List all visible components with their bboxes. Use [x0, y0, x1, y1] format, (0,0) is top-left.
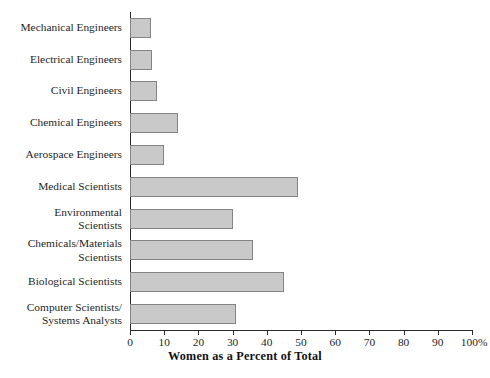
x-tick-label: 80 [398, 336, 409, 348]
bar-track [130, 76, 472, 108]
x-tick-mark [472, 330, 473, 335]
x-tick-label: 0 [127, 336, 133, 348]
bar-category-label: Electrical Engineers [0, 53, 122, 66]
bar-row: Computer Scientists/ Systems Analysts [0, 298, 490, 330]
bar-row: Mechanical Engineers [0, 12, 490, 44]
bar-row: Chemicals/Materials Scientists [0, 235, 490, 267]
bar-category-label: Civil Engineers [0, 85, 122, 98]
x-tick-label: 100% [461, 336, 488, 348]
bar-track [130, 171, 472, 203]
bar [130, 240, 253, 260]
bar-track [130, 203, 472, 235]
bar-track [130, 139, 472, 171]
x-tick-label: 90 [432, 336, 443, 348]
bar-category-label: Biological Scientists [0, 276, 122, 289]
x-tick-label: 20 [193, 336, 204, 348]
bar [130, 18, 151, 38]
bar-track [130, 12, 472, 44]
bar [130, 113, 178, 133]
x-axis-title: Women as a Percent of Total [0, 349, 490, 364]
bar-track [130, 266, 472, 298]
x-tick-label: 30 [227, 336, 238, 348]
bar-category-label: Computer Scientists/ Systems Analysts [0, 301, 122, 327]
bar [130, 177, 298, 197]
bar-row: Chemical Engineers [0, 107, 490, 139]
x-tick-mark [267, 330, 268, 335]
bar-row: Environmental Scientists [0, 203, 490, 235]
bar-row: Medical Scientists [0, 171, 490, 203]
bar-category-label: Medical Scientists [0, 180, 122, 193]
x-tick-mark [335, 330, 336, 335]
x-tick-label: 50 [295, 336, 306, 348]
bar-row: Aerospace Engineers [0, 139, 490, 171]
x-tick-label: 10 [158, 336, 169, 348]
x-tick-mark [369, 330, 370, 335]
bar [130, 81, 157, 101]
bar-track [130, 235, 472, 267]
bar-row: Biological Scientists [0, 266, 490, 298]
bar-category-label: Environmental Scientists [0, 205, 122, 231]
x-tick-mark [404, 330, 405, 335]
bar-row: Electrical Engineers [0, 44, 490, 76]
bar-category-label: Chemicals/Materials Scientists [0, 237, 122, 263]
bar-track [130, 107, 472, 139]
x-tick-label: 40 [261, 336, 272, 348]
bar-category-label: Mechanical Engineers [0, 21, 122, 34]
x-tick-mark [164, 330, 165, 335]
horizontal-bar-chart: Mechanical EngineersElectrical Engineers… [0, 0, 490, 378]
x-tick-mark [301, 330, 302, 335]
bar [130, 304, 236, 324]
bar-rows: Mechanical EngineersElectrical Engineers… [0, 12, 490, 330]
bar [130, 50, 152, 70]
x-tick-mark [233, 330, 234, 335]
bar [130, 272, 284, 292]
x-tick-label: 60 [329, 336, 340, 348]
bar-category-label: Chemical Engineers [0, 117, 122, 130]
bar-category-label: Aerospace Engineers [0, 148, 122, 161]
bar [130, 209, 233, 229]
x-tick-mark [438, 330, 439, 335]
bar [130, 145, 164, 165]
x-tick-label: 70 [364, 336, 375, 348]
bar-track [130, 298, 472, 330]
x-tick-mark [198, 330, 199, 335]
x-tick-mark [130, 330, 131, 335]
bar-track [130, 44, 472, 76]
bar-row: Civil Engineers [0, 76, 490, 108]
